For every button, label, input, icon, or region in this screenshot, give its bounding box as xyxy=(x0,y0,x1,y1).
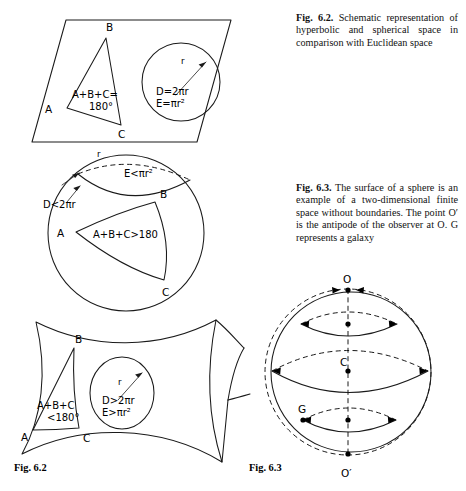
label-hyperbolic-area: E>πr² xyxy=(102,407,131,418)
fignum-label-6-2: Fig. 6.2 xyxy=(14,462,47,473)
label-euclid-B: B xyxy=(106,21,113,33)
label-hyperbolic-A: A xyxy=(21,431,29,443)
label-hyperbolic-circumference: D>2πr xyxy=(102,395,135,406)
sphere63-node-lat3 xyxy=(345,417,350,422)
label-euclid-radius: r xyxy=(181,56,185,66)
label-euclid-C: C xyxy=(118,128,125,140)
label-sphere63-antipode: O′ xyxy=(341,467,352,479)
label-euclid-anglesum-1: A+B+C= xyxy=(72,89,118,100)
label-euclid-A: A xyxy=(45,103,53,115)
sphere63-node-observer xyxy=(345,287,350,292)
hyperbolic-circle xyxy=(90,357,154,429)
label-hyperbolic-B: B xyxy=(75,333,82,345)
label-hyperbolic-anglesum-2: <180° xyxy=(47,412,79,423)
sphere63-lat2-front-arc xyxy=(272,371,428,393)
label-spherical-area: E<πr² xyxy=(124,168,153,179)
caption-fig-6-3: Fig. 6.3. The surface of a sphere is an … xyxy=(296,182,458,244)
panel-spherical-space: r E<πr² D<2πr A B C A+B+C>180 xyxy=(43,149,204,311)
sphere63-node-center xyxy=(345,368,350,373)
label-spherical-B: B xyxy=(160,188,167,200)
spherical-circumference-arrowhead xyxy=(73,185,80,191)
fignum-label-6-3: Fig. 6.3 xyxy=(249,462,282,473)
label-spherical-circumference: D<2πr xyxy=(43,199,76,210)
hyperbolic-fold-right-edge xyxy=(228,348,244,400)
label-sphere63-galaxy: G xyxy=(298,403,306,415)
figure-page: A B C A+B+C= 180° r D=2πr E=πr² r xyxy=(0,0,466,491)
sphere63-solid-circle xyxy=(271,292,431,452)
figure-artwork: A B C A+B+C= 180° r D=2πr E=πr² r xyxy=(0,0,466,491)
sphere63-node-antipode xyxy=(345,451,350,456)
label-euclid-area: E=πr² xyxy=(156,98,185,109)
label-hyperbolic-C: C xyxy=(83,432,90,444)
euclidean-circle xyxy=(142,43,220,121)
hyperbolic-fold-right-tick xyxy=(228,394,250,400)
label-spherical-A: A xyxy=(57,227,65,239)
label-spherical-radius: r xyxy=(97,149,101,159)
caption-fig-6-2: Fig. 6.2. Schematic representation of hy… xyxy=(296,12,458,49)
euclidean-radius-arrowhead xyxy=(199,62,206,68)
hyperbolic-fold-bottom-right xyxy=(222,400,228,462)
caption-fig-6-3-lead: Fig. 6.3. xyxy=(296,182,332,193)
spherical-triangle xyxy=(76,202,167,280)
sphere63-node-lat1 xyxy=(345,321,350,326)
panel-hyperbolic-space: A B C A+B+C <180° r D>2πr E>πr² xyxy=(21,320,250,462)
euclidean-plane-outline xyxy=(32,20,231,142)
sphere63-node-galaxy xyxy=(300,417,305,422)
label-sphere63-observer: O xyxy=(343,273,351,285)
caption-fig-6-2-lead: Fig. 6.2. xyxy=(296,12,333,23)
hyperbolic-radius-arrowhead xyxy=(135,372,143,377)
label-euclid-anglesum-2: 180° xyxy=(89,101,113,112)
panel-sphere-surface: O C G O′ xyxy=(265,273,431,479)
hyperbolic-fold-top-right xyxy=(216,320,244,348)
label-sphere63-center: C xyxy=(340,356,347,368)
label-euclid-circumference: D=2πr xyxy=(156,86,189,97)
label-hyperbolic-anglesum-1: A+B+C xyxy=(37,400,74,411)
panel-euclidean-plane: A B C A+B+C= 180° r D=2πr E=πr² xyxy=(32,20,231,142)
label-spherical-anglesum: A+B+C>180 xyxy=(93,229,158,240)
label-spherical-C: C xyxy=(162,286,169,298)
sphere63-lat2-back-arc xyxy=(272,351,428,372)
label-hyperbolic-radius: r xyxy=(118,377,122,387)
